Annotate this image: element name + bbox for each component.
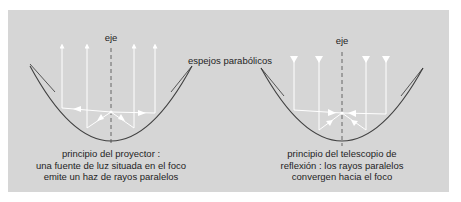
left-focus-point bbox=[109, 110, 112, 113]
left-axis-label: eje bbox=[105, 32, 118, 43]
caption-line: principio del proyector : bbox=[36, 148, 186, 160]
caption-line: reflexión : los rayos paralelos bbox=[280, 160, 403, 172]
caption-line: convergen hacia el foco bbox=[280, 171, 403, 183]
caption-line: emite un haz de rayos paralelos bbox=[36, 171, 186, 183]
mirrors-label: espejos parabólicos bbox=[188, 55, 272, 66]
right-parallel-rays bbox=[294, 56, 386, 130]
mirror-leader-lines bbox=[171, 66, 284, 96]
right-focus-rays bbox=[294, 110, 386, 130]
projector-caption: principio del proyector : una fuente de … bbox=[36, 148, 186, 183]
right-focus-point bbox=[340, 111, 343, 114]
outer-leader-lines bbox=[30, 64, 423, 96]
left-parallel-rays bbox=[62, 46, 155, 128]
telescope-diagram bbox=[261, 52, 423, 146]
left-focus-rays bbox=[62, 108, 155, 128]
right-axis-label: eje bbox=[336, 35, 349, 46]
telescope-caption: principio del telescopio de reflexión : … bbox=[280, 148, 403, 183]
caption-line: principio del telescopio de bbox=[280, 148, 403, 160]
caption-line: una fuente de luz situada en el foco bbox=[36, 160, 186, 172]
projector-diagram bbox=[30, 46, 192, 146]
right-incoming-arrowheads bbox=[290, 56, 390, 63]
